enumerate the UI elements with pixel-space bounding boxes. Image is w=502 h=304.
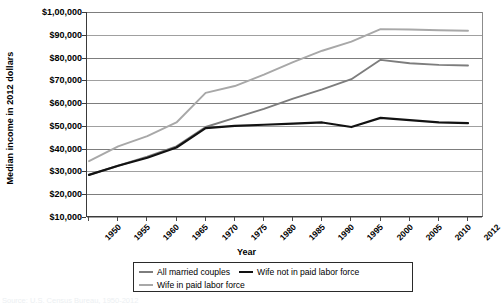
y-axis-tick-label: $40,000 — [20, 144, 82, 154]
legend-swatch-all-married-couples — [139, 271, 153, 273]
legend-label-wife-not-in-paid-labor-force: Wife not in paid labor force — [257, 267, 359, 277]
x-axis-tick-label: 1955 — [132, 222, 152, 242]
legend-swatch-wife-not-in-paid-labor-force — [239, 271, 253, 273]
x-axis-tick-label: 1980 — [277, 222, 297, 242]
legend-entry-wife-in-paid-labor-force: Wife in paid labor force — [139, 280, 245, 290]
legend-swatch-wife-in-paid-labor-force — [139, 284, 153, 286]
y-axis-tick-label: $60,000 — [20, 98, 82, 108]
x-axis-tick-label: 1950 — [103, 222, 123, 242]
y-axis-tick-label: $30,000 — [20, 166, 82, 176]
source-caption: Source: U.S. Census Bureau, 1950-2012 — [2, 296, 302, 304]
x-axis-tick-label: 2000 — [394, 222, 414, 242]
legend-entry-all-married-couples: All married couples — [139, 267, 230, 277]
y-axis-title: Median income in 2012 dollars — [2, 28, 18, 208]
x-axis-tick-label: 2005 — [423, 222, 443, 242]
legend-label-all-married-couples: All married couples — [157, 267, 230, 277]
legend-entry-wife-not-in-paid-labor-force: Wife not in paid labor force — [239, 267, 359, 277]
legend-row-2: Wife in paid labor force — [139, 278, 407, 291]
x-axis-tick-label: 2012 — [482, 222, 502, 242]
x-axis-tick-label: 2010 — [452, 222, 472, 242]
x-axis-tick-label: 1975 — [248, 222, 268, 242]
plot-area — [86, 12, 483, 217]
series-line — [89, 118, 468, 175]
y-axis-tick-labels: $1,00,000$90,000$80,000$70,000$60,000$50… — [20, 0, 86, 229]
series-line — [89, 29, 468, 161]
x-axis-tick-label: 1970 — [219, 222, 239, 242]
x-axis-tick-label: 1990 — [336, 222, 356, 242]
y-axis-tick-label: $90,000 — [20, 30, 82, 40]
series-lines — [87, 12, 484, 217]
x-axis-tick-label: 1960 — [161, 222, 181, 242]
legend-row-1: All married couples Wife not in paid lab… — [139, 265, 407, 278]
x-axis-tick-label: 1985 — [307, 222, 327, 242]
y-axis-tick-label: $70,000 — [20, 75, 82, 85]
x-axis-tick-label: 1995 — [365, 222, 385, 242]
legend-label-wife-in-paid-labor-force: Wife in paid labor force — [157, 280, 245, 290]
x-axis-title: Year — [0, 247, 493, 257]
y-axis-tick-label: $50,000 — [20, 121, 82, 131]
y-axis-tick-label: $1,00,000 — [20, 7, 82, 17]
x-axis-title-text: Year — [237, 247, 256, 257]
y-axis-tick-label: $20,000 — [20, 189, 82, 199]
x-axis-tick-label: 1965 — [190, 222, 210, 242]
chart-legend: All married couples Wife not in paid lab… — [133, 262, 413, 292]
y-axis-tick-label: $80,000 — [20, 53, 82, 63]
y-axis-title-text: Median income in 2012 dollars — [5, 52, 15, 185]
